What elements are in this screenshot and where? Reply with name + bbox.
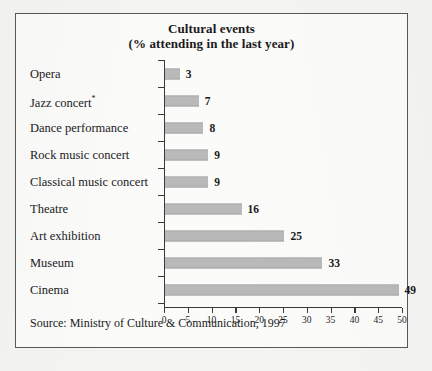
bar-group-dance-performance: 8 (165, 122, 215, 133)
category-label-art-exhibition: Art exhibition (30, 229, 100, 243)
category-label-museum: Museum (30, 256, 74, 270)
x-axis-tick (164, 308, 165, 313)
y-axis-tick (158, 141, 165, 142)
bar-group-museum: 33 (165, 257, 340, 268)
x-axis-tick (307, 308, 308, 313)
x-axis-tick-label: 40 (350, 314, 360, 326)
x-axis-tick-label: 30 (302, 314, 312, 326)
bar-group-theatre: 16 (165, 203, 259, 214)
y-axis-tick (158, 222, 165, 223)
y-axis-tick (158, 60, 165, 61)
category-label-theatre: Theatre (30, 202, 68, 216)
bar-group-rock-music-concert: 9 (165, 149, 220, 160)
x-axis-tick-label: 45 (373, 314, 383, 326)
bar-row-theatre: Theatre 16 (16, 195, 409, 222)
x-axis-tick (354, 308, 355, 313)
category-label-classical-music-concert: Classical music concert (30, 175, 148, 189)
bar-value-classical-music-concert: 9 (214, 176, 220, 187)
bar-value-rock-music-concert: 9 (214, 149, 220, 160)
category-label-opera: Opera (30, 67, 61, 81)
bar-value-jazz-concert: 7 (205, 95, 211, 106)
x-axis-tick (235, 308, 236, 313)
x-axis-tick (259, 308, 260, 313)
category-label-rock-music-concert: Rock music concert (30, 148, 129, 162)
bar-value-dance-performance: 8 (209, 122, 215, 133)
bar-opera (165, 68, 179, 79)
bar-chart-plot-area: Opera 3 Jazz concert* 7 Dance performanc… (16, 60, 409, 308)
category-label-dance-performance: Dance performance (30, 121, 128, 135)
bar-value-art-exhibition: 25 (290, 230, 302, 241)
category-label-jazz-concert: Jazz concert* (30, 92, 95, 109)
bar-row-dance-performance: Dance performance 8 (16, 114, 409, 141)
bar-jazz-concert (165, 95, 198, 106)
y-axis-tick (158, 276, 165, 277)
bar-art-exhibition (165, 230, 284, 241)
bar-value-museum: 33 (328, 257, 340, 268)
x-axis-tick (402, 308, 403, 313)
bar-classical-music-concert (165, 176, 208, 187)
bar-row-rock-music-concert: Rock music concert 9 (16, 141, 409, 168)
bar-group-opera: 3 (165, 68, 191, 79)
y-axis-tick (158, 168, 165, 169)
footnote-marker-icon: * (91, 94, 95, 103)
y-axis-tick (158, 249, 165, 250)
bar-row-jazz-concert: Jazz concert* 7 (16, 87, 409, 114)
bar-group-art-exhibition: 25 (165, 230, 302, 241)
x-axis-tick-label: 35 (326, 314, 336, 326)
bar-row-cinema: Cinema 49 (16, 276, 409, 303)
figure-container: Cultural events (% attending in the last… (15, 13, 408, 348)
category-label-cinema: Cinema (30, 283, 69, 297)
figure-title-line1: Cultural events (168, 21, 255, 36)
bar-cinema (165, 284, 398, 295)
bar-rock-music-concert (165, 149, 208, 160)
source-note: Source: Ministry of Culture & Communicat… (30, 316, 286, 331)
x-axis-tick (188, 308, 189, 313)
bar-theatre (165, 203, 241, 214)
x-axis-tick (378, 308, 379, 313)
category-label-jazz-concert-text: Jazz concert (30, 95, 91, 109)
y-axis-tick (158, 195, 165, 196)
x-axis-tick-label: 50 (397, 314, 407, 326)
bar-value-theatre: 16 (248, 203, 260, 214)
bar-row-opera: Opera 3 (16, 60, 409, 87)
bar-dance-performance (165, 122, 203, 133)
x-axis-tick (331, 308, 332, 313)
y-axis-tick (158, 114, 165, 115)
bar-value-cinema: 49 (405, 284, 417, 295)
bar-group-classical-music-concert: 9 (165, 176, 220, 187)
figure-title: Cultural events (% attending in the last… (16, 14, 407, 51)
x-axis-tick (283, 308, 284, 313)
bar-row-art-exhibition: Art exhibition 25 (16, 222, 409, 249)
figure-title-line2: (% attending in the last year) (16, 36, 407, 51)
y-axis-tick (158, 87, 165, 88)
bar-row-museum: Museum 33 (16, 249, 409, 276)
x-axis-tick (212, 308, 213, 313)
bar-value-opera: 3 (186, 68, 192, 79)
bar-group-jazz-concert: 7 (165, 95, 210, 106)
bar-museum (165, 257, 322, 268)
bar-rows: Opera 3 Jazz concert* 7 Dance performanc… (16, 60, 409, 303)
bar-group-cinema: 49 (165, 284, 416, 295)
y-axis-tick (158, 303, 165, 304)
bar-row-classical-music-concert: Classical music concert 9 (16, 168, 409, 195)
